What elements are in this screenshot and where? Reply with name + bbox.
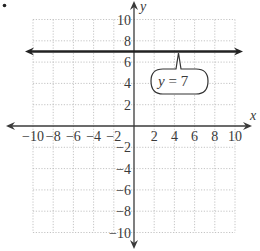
x-tick-label: −4 — [86, 129, 101, 144]
y-tick-label: −8 — [116, 204, 131, 219]
y-tick-label: 8 — [124, 34, 131, 49]
x-tick-label: 4 — [171, 129, 178, 144]
x-tick-label: 2 — [151, 129, 158, 144]
callout-eq: = 7 — [165, 73, 189, 89]
y-axis-label: y — [138, 0, 147, 14]
y-tick-label: 4 — [124, 76, 131, 91]
bullet-dot — [3, 4, 7, 8]
x-tick-label: 8 — [211, 129, 218, 144]
y-tick-label: 10 — [117, 13, 131, 28]
x-axis-label: x — [249, 108, 257, 123]
y-tick-label: −4 — [116, 162, 131, 177]
y-tick-label: −6 — [116, 183, 131, 198]
y-tick-label: −2 — [116, 140, 131, 155]
x-tick-label: −8 — [46, 129, 61, 144]
coordinate-plane: −10−8−6−4−2246810−10−8−6−4−2246810 y x y… — [0, 0, 260, 251]
x-tick-label: −6 — [66, 129, 81, 144]
y-tick-label: 2 — [124, 98, 131, 113]
y-tick-label: 6 — [124, 55, 131, 70]
callout-label: y = 7 — [156, 73, 189, 89]
callout-var: y — [156, 73, 165, 89]
x-tick-label: 10 — [228, 129, 242, 144]
y-tick-label: −10 — [109, 226, 131, 241]
x-tick-label: 6 — [191, 129, 198, 144]
x-tick-label: −10 — [22, 129, 44, 144]
callout-y-equals-7: y = 7 — [151, 53, 208, 94]
